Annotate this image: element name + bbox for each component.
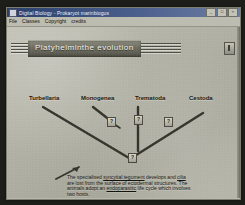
menu-item-file[interactable]: File bbox=[9, 18, 17, 25]
description-text: The specialised syncytial tegument devel… bbox=[67, 175, 237, 197]
link-endoparasitic[interactable]: endoparasitic bbox=[106, 185, 136, 191]
node-marker-cestoda[interactable]: ? bbox=[164, 117, 173, 127]
close-button[interactable]: × bbox=[228, 8, 238, 17]
window-controls: _ □ × bbox=[206, 8, 238, 17]
desktop-backdrop: Digital Biology - Prokaryot marinbiogus … bbox=[0, 0, 245, 205]
node-marker-monogenea[interactable]: ? bbox=[107, 117, 116, 127]
maximize-button[interactable]: □ bbox=[217, 8, 227, 17]
minimize-button[interactable]: _ bbox=[206, 8, 216, 17]
content-canvas: Platyhelminthe evolution Turbellaria Mon… bbox=[7, 27, 240, 198]
menu-item-copyright[interactable]: Copyright bbox=[45, 18, 66, 25]
window-title: Digital Biology - Prokaryot marinbiogus bbox=[19, 10, 206, 16]
menu-bar: File Classes Copyright credits bbox=[7, 17, 240, 27]
app-icon bbox=[9, 9, 17, 17]
application-window: Digital Biology - Prokaryot marinbiogus … bbox=[6, 7, 241, 200]
cladogram-diagram bbox=[7, 27, 240, 198]
node-marker-trematoda[interactable]: ? bbox=[134, 115, 143, 125]
content-right-edge bbox=[237, 27, 240, 198]
desc-text-d: life cycle which involves bbox=[136, 185, 190, 191]
title-bar[interactable]: Digital Biology - Prokaryot marinbiogus … bbox=[7, 8, 240, 17]
menu-item-credits[interactable]: credits bbox=[71, 18, 86, 25]
node-marker-root[interactable]: ? bbox=[128, 153, 137, 163]
menu-item-classes[interactable]: Classes bbox=[22, 18, 40, 25]
branch-turbellaria bbox=[43, 107, 129, 158]
description-line-4: two hosts. bbox=[67, 192, 237, 198]
